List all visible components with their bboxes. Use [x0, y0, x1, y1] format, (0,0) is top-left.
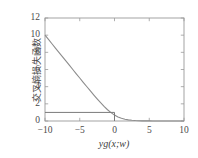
y-tick-label: 4 [0, 82, 40, 92]
x-tick-label: 0 [112, 126, 117, 136]
x-axis-label: yg(x;w) [99, 139, 130, 149]
chart-canvas [0, 0, 198, 158]
y-tick-label: 6 [0, 65, 40, 75]
y-tick-label: 2 [0, 99, 40, 109]
x-tick-label: −5 [75, 126, 85, 136]
x-tick-label: 5 [147, 126, 152, 136]
y-tick-label: 12 [0, 13, 40, 23]
x-tick-label: −10 [38, 126, 53, 136]
y-tick-label: 8 [0, 48, 40, 58]
chart-figure: 交叉熵损失函数 yg(x;w) −10−50510 024681012 [0, 0, 198, 158]
y-tick-label: 0 [0, 116, 40, 126]
x-tick-label: 10 [179, 126, 189, 136]
plot-frame [45, 18, 184, 121]
y-tick-label: 10 [0, 30, 40, 40]
